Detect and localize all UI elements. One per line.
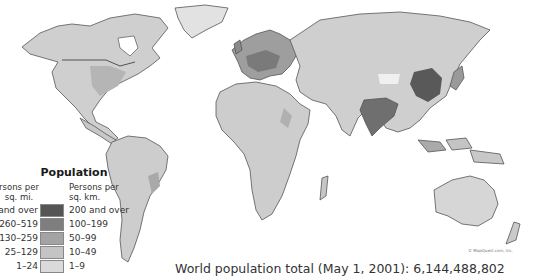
legend-swatch (40, 204, 64, 217)
legend-swatch (40, 260, 64, 273)
legend-col-mi-header: rsons per sq. mi. (0, 182, 44, 202)
legend-row: 1–24 1–9 (0, 260, 175, 274)
legend-swatch (40, 232, 64, 245)
legend-row: 260–519 100–199 (0, 218, 175, 232)
legend: Population rsons per sq. mi. Persons per… (0, 166, 175, 280)
legend-row: and over 200 and over (0, 204, 175, 218)
greenland (175, 5, 228, 38)
legend-swatch (40, 246, 64, 259)
legend-km-value: 100–199 (69, 219, 108, 229)
legend-mi-value: 130–259 (0, 233, 38, 243)
madagascar (320, 176, 328, 200)
legend-km-value: 10–49 (69, 247, 96, 257)
legend-swatch (40, 218, 64, 231)
legend-row: 130–259 50–99 (0, 232, 175, 246)
australia (434, 176, 498, 226)
new-zealand (506, 222, 520, 244)
legend-km-value: 50–99 (69, 233, 96, 243)
legend-title: Population (24, 166, 124, 179)
legend-mi-value: 260–519 (0, 219, 38, 229)
population-caption: World population total (May 1, 2001): 6,… (175, 261, 505, 276)
legend-mi-value: and over (0, 205, 38, 215)
legend-km-value: 1–9 (69, 261, 85, 271)
legend-col-km-header: Persons per sq. km. (69, 182, 129, 202)
legend-mi-value: 25–129 (0, 247, 38, 257)
legend-row: 25–129 10–49 (0, 246, 175, 260)
map-credit: © MapQuest.com, Inc. (468, 248, 513, 253)
africa (216, 82, 310, 220)
legend-mi-value: 1–24 (0, 261, 38, 271)
legend-km-value: 200 and over (69, 205, 129, 215)
